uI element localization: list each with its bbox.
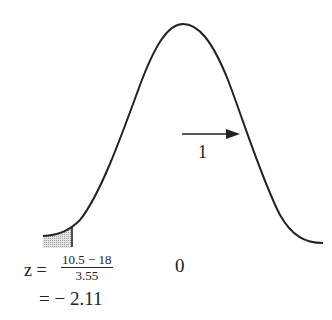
z-result: = − 2.11	[39, 289, 102, 308]
mean-label: 0	[175, 256, 185, 275]
fraction-denominator: 3.55	[75, 268, 98, 282]
fraction-numerator: 10.5 − 18	[61, 253, 113, 268]
arrow-head-icon	[226, 129, 240, 139]
normal-curve-diagram	[0, 0, 332, 320]
z-equals-label: z =	[24, 261, 47, 279]
sd-label: 1	[198, 143, 207, 161]
z-fraction: 10.5 − 18 3.55	[61, 253, 113, 282]
